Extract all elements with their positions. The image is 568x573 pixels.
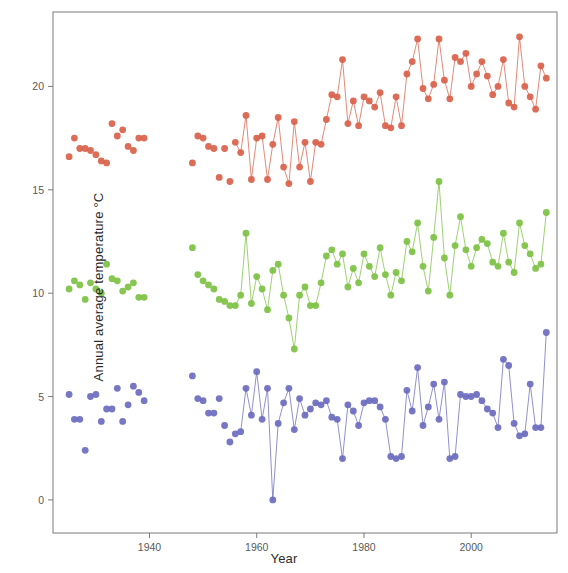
data-point [248, 300, 255, 307]
data-point [221, 422, 228, 429]
data-point [441, 77, 448, 84]
data-series-layer [66, 33, 550, 503]
data-point [404, 71, 411, 78]
data-point [361, 251, 368, 258]
data-point [377, 244, 384, 251]
data-point [543, 209, 550, 216]
data-point [355, 279, 362, 286]
data-point [269, 141, 276, 148]
data-point [371, 104, 378, 111]
data-point [489, 91, 496, 98]
data-point [436, 36, 443, 43]
data-point [479, 236, 486, 243]
data-point [532, 265, 539, 272]
data-point [286, 315, 293, 322]
axis-ticks [48, 86, 471, 538]
data-point [473, 71, 480, 78]
data-point [521, 242, 528, 249]
data-point [500, 56, 507, 63]
data-point [114, 385, 121, 392]
data-point [521, 430, 528, 437]
data-point [323, 116, 330, 123]
data-point [468, 263, 475, 270]
data-point [211, 286, 218, 293]
data-point [430, 81, 437, 88]
data-point [248, 412, 255, 419]
data-point [473, 244, 480, 251]
data-point [259, 286, 266, 293]
data-point [414, 364, 421, 371]
data-point [200, 135, 207, 142]
data-point [194, 271, 201, 278]
data-point [66, 391, 73, 398]
data-point [382, 271, 389, 278]
data-point [328, 246, 335, 253]
data-point [393, 93, 400, 100]
series-maximum-temperature [66, 33, 550, 187]
data-point [516, 33, 523, 40]
data-point [280, 164, 287, 171]
data-point [221, 145, 228, 152]
data-point [280, 399, 287, 406]
data-point [334, 416, 341, 423]
data-point [200, 397, 207, 404]
data-point [339, 455, 346, 462]
data-point [98, 418, 105, 425]
data-point [253, 273, 260, 280]
data-point [141, 135, 148, 142]
data-point [543, 329, 550, 336]
data-point [484, 406, 491, 413]
data-point [334, 93, 341, 100]
data-point [371, 397, 378, 404]
data-point [420, 85, 427, 92]
data-point [543, 75, 550, 82]
data-point [436, 178, 443, 185]
data-point [243, 385, 250, 392]
data-point [409, 58, 416, 65]
data-point [420, 263, 427, 270]
data-point [489, 410, 496, 417]
data-point [259, 416, 266, 423]
data-point [500, 356, 507, 363]
data-point [521, 83, 528, 90]
data-point [130, 383, 137, 390]
data-point [114, 133, 121, 140]
data-point [296, 292, 303, 299]
data-point [200, 277, 207, 284]
data-point [355, 122, 362, 129]
data-point [323, 397, 330, 404]
data-point [323, 253, 330, 260]
data-point [216, 174, 223, 181]
data-point [280, 292, 287, 299]
scatter-line-chart: 194019601980200005101520 [0, 0, 568, 573]
data-point [420, 422, 427, 429]
data-point [398, 122, 405, 129]
data-point [516, 220, 523, 227]
data-point [216, 395, 223, 402]
data-point [269, 267, 276, 274]
data-point [248, 176, 255, 183]
data-point [66, 153, 73, 160]
data-point [452, 453, 459, 460]
data-point [441, 255, 448, 262]
data-point [307, 406, 314, 413]
data-point [119, 126, 126, 133]
data-point [237, 428, 244, 435]
data-point [404, 387, 411, 394]
data-point [211, 145, 218, 152]
data-point [484, 73, 491, 80]
data-point [425, 404, 432, 411]
data-point [425, 288, 432, 295]
data-point [93, 151, 100, 158]
y-tick-label: 20 [32, 80, 44, 92]
data-point [414, 36, 421, 43]
data-point [371, 273, 378, 280]
data-point [457, 213, 464, 220]
data-point [511, 104, 518, 111]
data-point [82, 447, 89, 454]
data-point [511, 269, 518, 276]
data-point [103, 160, 110, 167]
data-point [109, 406, 116, 413]
data-point [71, 135, 78, 142]
data-point [302, 139, 309, 146]
